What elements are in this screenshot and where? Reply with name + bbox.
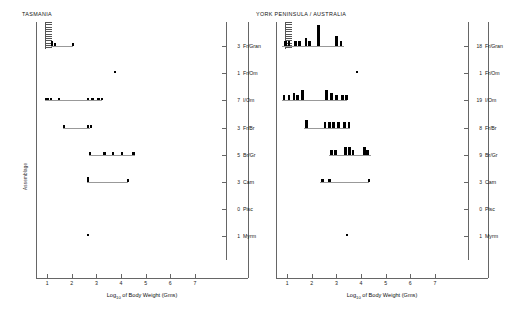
guild-species-count: 3 xyxy=(229,179,240,185)
data-bar xyxy=(335,36,338,46)
x-axis-tick xyxy=(361,274,362,278)
data-bar xyxy=(91,98,93,101)
x-axis-tick-label: 1 xyxy=(46,280,49,286)
data-bar xyxy=(330,93,333,101)
guild-scale-axis xyxy=(226,22,227,260)
data-bar xyxy=(54,43,56,46)
x-axis-tick-label: 5 xyxy=(144,280,147,286)
data-bar xyxy=(87,177,89,182)
data-bar xyxy=(352,150,355,155)
data-bar xyxy=(298,41,300,46)
x-axis-tick-label: 1 xyxy=(286,280,289,286)
x-axis-tick xyxy=(410,274,411,278)
data-bar xyxy=(343,122,346,127)
guild-label-fr_om: Fr/Om xyxy=(485,70,500,76)
guild-range-line xyxy=(329,155,371,156)
x-axis-line xyxy=(276,278,488,279)
guild-species-count: 8 xyxy=(471,125,482,131)
guild-tick xyxy=(464,155,468,156)
data-bar xyxy=(366,150,369,155)
guild-tick xyxy=(464,209,468,210)
x-axis-tick-label: 2 xyxy=(70,280,73,286)
data-bar xyxy=(305,38,307,46)
guild-label-pisc: Pisc xyxy=(485,206,495,212)
x-axis-tick-label: 6 xyxy=(409,280,412,286)
data-bar xyxy=(330,150,333,155)
x-axis-tick-label: 4 xyxy=(360,280,363,286)
y-axis-title: Assemblage xyxy=(23,163,28,190)
guild-range-line xyxy=(51,46,73,47)
data-bar xyxy=(368,179,370,182)
data-bar xyxy=(344,147,347,155)
x-axis-tick-label: 2 xyxy=(310,280,313,286)
data-bar xyxy=(50,98,52,101)
x-axis-tick-label: 3 xyxy=(335,280,338,286)
guild-tick xyxy=(222,128,226,129)
guild-species-count: 3 xyxy=(229,125,240,131)
plot-frame-right xyxy=(488,22,489,278)
guild-species-count: 18 xyxy=(471,43,482,49)
guild-tick xyxy=(464,182,468,183)
x-axis-tick xyxy=(435,274,436,278)
data-bar xyxy=(283,95,286,100)
guild-species-count: 1 xyxy=(229,233,240,239)
data-bar xyxy=(305,120,308,128)
data-bar xyxy=(317,25,320,46)
guild-tick xyxy=(464,46,468,47)
data-bar xyxy=(90,125,92,128)
guild-range-line xyxy=(87,182,128,183)
guild-tick xyxy=(464,100,468,101)
data-bar xyxy=(308,41,310,46)
x-axis-tick xyxy=(96,274,97,278)
guild-label-i_om: I/Om xyxy=(485,97,496,103)
guild-tick xyxy=(464,73,468,74)
figure-root: TASMANIA1234567Log10 of Body Weight (Gms… xyxy=(0,0,525,326)
guild-tick xyxy=(222,100,226,101)
x-axis-tick xyxy=(287,274,288,278)
x-axis-tick xyxy=(312,274,313,278)
guild-range-line xyxy=(282,46,344,47)
guild-label-fr_gran: Fr/Gran xyxy=(485,43,503,49)
data-bar xyxy=(321,179,323,182)
guild-range-line xyxy=(304,128,350,129)
data-bar xyxy=(296,95,299,100)
data-bar xyxy=(328,179,330,182)
guild-tick xyxy=(464,236,468,237)
data-bar xyxy=(294,41,296,46)
data-bar xyxy=(324,122,327,127)
guild-species-count: 0 xyxy=(471,206,482,212)
guild-species-count: 1 xyxy=(471,70,482,76)
x-axis-tick xyxy=(386,274,387,278)
guild-range-line xyxy=(45,100,102,101)
data-bar xyxy=(112,152,114,155)
guild-species-count: 3 xyxy=(229,43,240,49)
data-bar xyxy=(325,90,328,100)
data-bar xyxy=(288,95,291,100)
x-axis-tick-label: 3 xyxy=(95,280,98,286)
guild-tick xyxy=(464,128,468,129)
data-bar xyxy=(284,41,286,46)
guild-scale-axis xyxy=(468,22,469,260)
data-bar xyxy=(87,98,89,101)
x-axis-tick xyxy=(336,274,337,278)
data-bar xyxy=(337,122,340,127)
data-bar xyxy=(293,93,296,101)
data-bar xyxy=(301,90,304,100)
guild-label-myrm: Myrm xyxy=(485,233,498,239)
panel-tasmania: TASMANIA1234567Log10 of Body Weight (Gms… xyxy=(0,0,262,326)
data-bar xyxy=(89,152,91,155)
data-bar xyxy=(101,98,103,101)
panel-title: YORK PENINSULA / AUSTRALIA xyxy=(256,11,346,17)
guild-species-count: 1 xyxy=(229,70,240,76)
data-bar xyxy=(132,152,134,155)
guild-tick xyxy=(222,209,226,210)
x-axis-tick-label: 5 xyxy=(384,280,387,286)
guild-tick xyxy=(222,236,226,237)
guild-species-count: 19 xyxy=(471,97,482,103)
guild-label-carn: Carn xyxy=(485,179,496,185)
y-axis-line xyxy=(36,22,37,278)
guild-tick xyxy=(222,46,226,47)
data-bar xyxy=(335,95,338,100)
data-bar xyxy=(127,179,129,182)
data-bar xyxy=(332,122,335,127)
